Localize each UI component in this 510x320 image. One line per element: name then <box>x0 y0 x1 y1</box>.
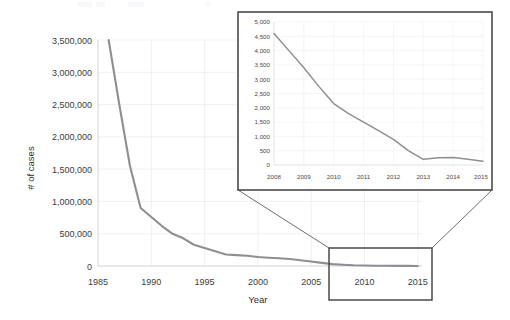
inset-x-tick-2015: 2015 <box>474 173 488 180</box>
inset-x-tick-2013: 2013 <box>416 173 430 180</box>
main-y-tick-2000000: 2,000,000 <box>52 132 92 142</box>
inset-y-tick-2000: 2,000 <box>255 104 271 111</box>
inset-x-tick-2011: 2011 <box>357 173 371 180</box>
main-y-axis-title: # of cases <box>25 146 36 190</box>
main-x-tick-2010: 2010 <box>354 277 374 287</box>
inset-x-tick-2010: 2010 <box>327 173 341 180</box>
main-x-tick-1985: 1985 <box>88 277 108 287</box>
main-x-tick-1990: 1990 <box>141 277 161 287</box>
measles-cases-figure: 3,500,000 3,000,000 2,500,000 2,000,000 … <box>0 0 510 320</box>
inset-y-tick-0: 0 <box>267 161 271 168</box>
inset-y-tick-3000: 3,000 <box>255 76 271 83</box>
main-y-tick-3500000: 3,500,000 <box>52 36 92 46</box>
main-y-tick-3000000: 3,000,000 <box>52 68 92 78</box>
inset-y-tick-1000: 1,000 <box>255 133 271 140</box>
main-y-tick-labels: 3,500,000 3,000,000 2,500,000 2,000,000 … <box>52 36 92 272</box>
main-x-tick-2005: 2005 <box>301 277 321 287</box>
scan-artifacts <box>78 2 211 7</box>
main-y-tick-1500000: 1,500,000 <box>52 165 92 175</box>
main-y-tick-1000000: 1,000,000 <box>52 197 92 207</box>
inset-y-tick-4500: 4,500 <box>255 33 271 40</box>
inset-y-tick-2500: 2,500 <box>255 90 271 97</box>
main-y-tick-2500000: 2,500,000 <box>52 100 92 110</box>
inset-chart: 5,000 4,500 4,000 3,500 3,000 2,500 2,00… <box>238 12 492 190</box>
inset-y-tick-500: 500 <box>260 147 271 154</box>
inset-x-tick-2014: 2014 <box>446 173 460 180</box>
inset-y-tick-3500: 3,500 <box>255 61 271 68</box>
inset-x-tick-2012: 2012 <box>387 173 401 180</box>
inset-y-tick-4000: 4,000 <box>255 47 271 54</box>
main-x-axis-title: Year <box>248 294 267 305</box>
main-y-tick-0: 0 <box>87 262 92 272</box>
inset-y-tick-1500: 1,500 <box>255 118 271 125</box>
inset-x-tick-2009: 2009 <box>297 173 311 180</box>
main-x-tick-2015: 2015 <box>408 277 428 287</box>
main-y-tick-500000: 500,000 <box>59 229 92 239</box>
inset-x-tick-2008: 2008 <box>267 173 281 180</box>
inset-y-tick-5000: 5,000 <box>255 18 271 25</box>
main-x-tick-1995: 1995 <box>195 277 215 287</box>
main-x-tick-2000: 2000 <box>248 277 268 287</box>
main-x-tick-labels: 1985 1990 1995 2000 2005 2010 2015 <box>88 277 428 287</box>
